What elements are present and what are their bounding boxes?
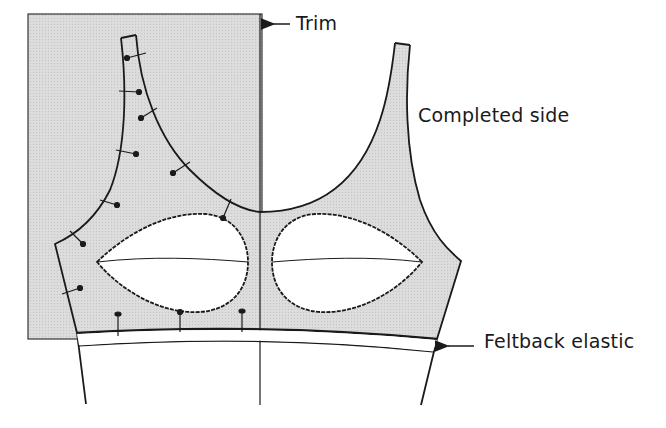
- bra-pattern-diagram: [0, 0, 666, 428]
- feltback-elastic-label: Feltback elastic: [484, 330, 634, 352]
- trim-label: Trim: [296, 12, 337, 34]
- completed-side-label: Completed side: [418, 104, 569, 126]
